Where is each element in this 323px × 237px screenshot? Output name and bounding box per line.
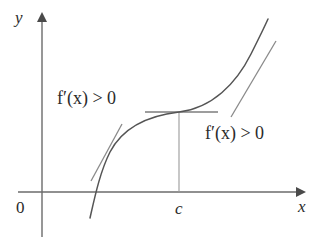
origin-label: 0 (16, 199, 25, 216)
y-axis-arrow-icon (37, 12, 47, 22)
left-tangent-line (91, 124, 122, 181)
graph-canvas (0, 0, 323, 237)
y-axis (37, 12, 47, 237)
left-derivative-annotation: f′(x) > 0 (57, 89, 116, 107)
x-axis-arrow-icon (296, 187, 306, 197)
derivative-graph-figure: y x 0 c f′(x) > 0 f′(x) > 0 (0, 0, 323, 237)
right-tangent-line (231, 41, 276, 117)
right-derivative-annotation: f′(x) > 0 (205, 124, 264, 142)
x-axis (18, 187, 306, 197)
point-c-label: c (175, 200, 183, 217)
x-axis-label: x (298, 198, 306, 215)
y-axis-label: y (15, 9, 23, 26)
